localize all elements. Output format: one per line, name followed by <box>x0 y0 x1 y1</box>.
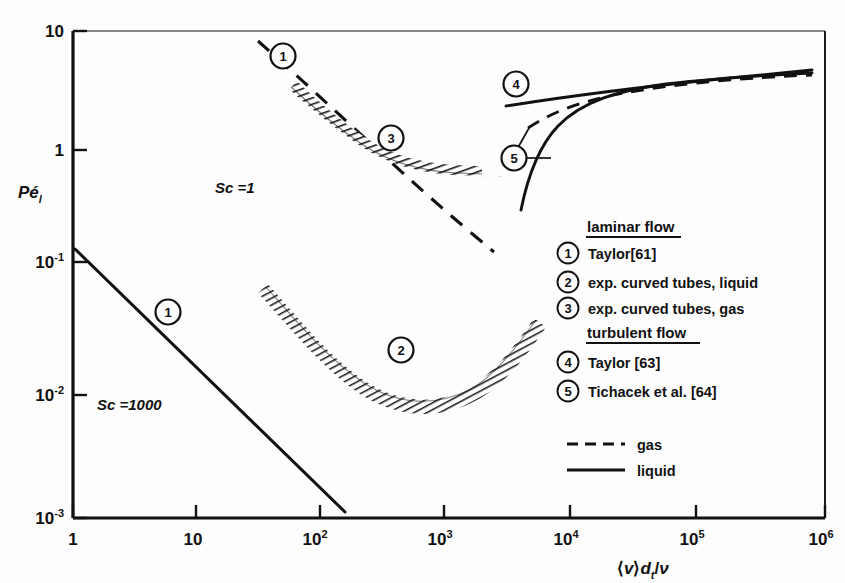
svg-text:3: 3 <box>564 301 571 316</box>
legend-linekey-liquid-label: liquid <box>637 463 676 479</box>
y-tick-label-1: 1 <box>55 141 64 160</box>
svg-text:4: 4 <box>512 77 520 92</box>
legend-label-5: Tichacek et al. [64] <box>588 384 717 400</box>
svg-text:1: 1 <box>279 49 286 64</box>
legend-linekey-gas-label: gas <box>637 437 662 453</box>
svg-text:3: 3 <box>387 131 394 146</box>
legend-label-3: exp. curved tubes, gas <box>588 301 744 317</box>
marker-1-top: 1 <box>271 44 296 69</box>
y-tick-label-0: 10 <box>45 22 64 41</box>
svg-text:4: 4 <box>564 355 572 370</box>
label-sc-1: Sc =1 <box>215 179 255 196</box>
legend-heading-turbulent: turbulent flow <box>587 324 686 341</box>
marker-1-bottom: 1 <box>156 300 181 325</box>
figure-container: 10 1 10-1 10-2 10-3 Pél 1 10 <box>0 0 845 583</box>
x-tick-label-0: 1 <box>68 530 77 549</box>
legend-label-4: Taylor [63] <box>588 355 660 371</box>
svg-text:5: 5 <box>510 151 517 166</box>
svg-text:1: 1 <box>164 305 171 320</box>
canvas-background <box>0 0 845 583</box>
marker-4: 4 <box>504 72 529 97</box>
legend-label-1: Taylor[61] <box>588 246 656 262</box>
label-sc-1000: Sc =1000 <box>97 396 162 413</box>
marker-2: 2 <box>389 338 414 363</box>
marker-5: 5 <box>502 146 527 171</box>
svg-text:2: 2 <box>564 275 571 290</box>
svg-text:2: 2 <box>397 343 404 358</box>
legend-heading-laminar: laminar flow <box>587 218 675 235</box>
log-log-chart: 10 1 10-1 10-2 10-3 Pél 1 10 <box>0 0 845 583</box>
legend-item-4[interactable]: 4 Taylor [63] <box>558 352 661 373</box>
x-axis-title: ⟨v⟩dt/ν <box>617 559 669 581</box>
marker-3: 3 <box>379 126 404 151</box>
svg-text:5: 5 <box>564 384 571 399</box>
legend-item-1[interactable]: 1 Taylor[61] <box>558 243 657 264</box>
legend-item-2[interactable]: 2 exp. curved tubes, liquid <box>558 272 759 293</box>
legend-label-2: exp. curved tubes, liquid <box>588 275 758 291</box>
x-tick-label-1: 10 <box>184 530 203 549</box>
svg-text:1: 1 <box>564 246 571 261</box>
